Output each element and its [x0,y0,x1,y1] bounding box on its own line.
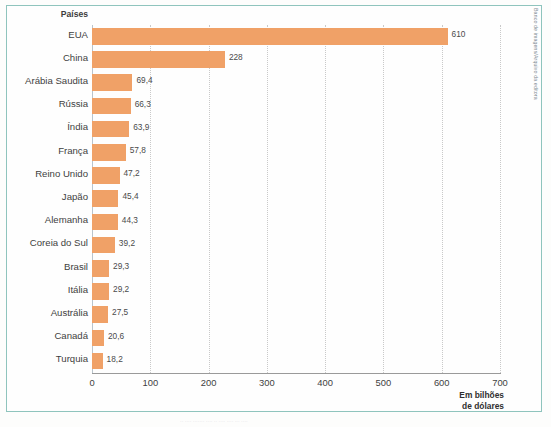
category-label: França [0,145,88,156]
category-label: Índia [0,121,88,132]
category-label-cell: Índia [0,118,88,141]
bar-value-label: 610 [452,29,466,39]
category-label-cell: Coreia do Sul [0,234,88,257]
category-label-cell: Turquia [0,350,88,373]
category-label: EUA [0,29,88,40]
bar[interactable] [92,74,132,91]
bar-value-label: 27,5 [112,307,128,317]
category-label: Brasil [0,261,88,272]
bar-row: 228China [92,48,500,71]
x-tick-label: 200 [189,377,229,388]
bar[interactable] [92,214,118,231]
bar-row: 47,2Reino Unido [92,164,500,187]
bottom-text-artifact: ·· ···· ······· ···· ·· ···· ···· ··· ··… [0,418,551,427]
category-label-cell: Austrália [0,303,88,326]
bar-value-label: 18,2 [107,354,123,364]
bar-value-label: 47,2 [124,168,140,178]
category-label: Canadá [0,330,88,341]
bar[interactable] [92,283,109,300]
x-tick-label: 700 [480,377,520,388]
plot-area: 610EUA228China69,4Arábia Saudita66,3Rúss… [92,25,500,373]
bar[interactable] [92,353,103,370]
bar-value-label: 39,2 [119,238,135,248]
bar-row: 45,4Japão [92,187,500,210]
bar-value-label: 29,2 [113,284,129,294]
category-label: Coreia do Sul [0,237,88,248]
bar-value-label: 29,3 [113,261,129,271]
category-label-cell: Itália [0,280,88,303]
category-label: Reino Unido [0,168,88,179]
bar-row: 20,6Canadá [92,327,500,350]
x-axis-label: Em bilhõesde dólares [430,390,504,411]
bottom-text-artifact-text: ·· ···· ······· ···· ·· ···· ···· ··· ··… [0,418,551,424]
bar-row: 27,5Austrália [92,303,500,326]
category-label-cell: Arábia Saudita [0,71,88,94]
bar-row: 63,9Índia [92,118,500,141]
bar[interactable] [92,121,129,138]
bar-value-label: 63,9 [133,122,149,132]
category-label-cell: China [0,48,88,71]
category-column-header: Países [0,9,88,19]
category-label: Alemanha [0,214,88,225]
bar[interactable] [92,98,131,115]
bar[interactable] [92,260,109,277]
bar-value-label: 20,6 [108,331,124,341]
category-label: China [0,52,88,63]
x-axis-label-line1: Em bilhões [430,390,504,401]
bar[interactable] [92,330,104,347]
category-label-cell: EUA [0,25,88,48]
bar[interactable] [92,144,126,161]
x-tick-label: 600 [422,377,462,388]
bar-row: 610EUA [92,25,500,48]
category-label-cell: Alemanha [0,211,88,234]
x-axis-label-line2: de dólares [430,401,504,412]
bar-value-label: 69,4 [136,75,152,85]
category-label-cell: Rússia [0,95,88,118]
bar-row: 57,8França [92,141,500,164]
bar-row: 69,4Arábia Saudita [92,71,500,94]
gridline [500,25,501,373]
x-axis-line [92,373,501,374]
category-label: Rússia [0,98,88,109]
category-label: Austrália [0,307,88,318]
category-label: Japão [0,191,88,202]
category-label-cell: Brasil [0,257,88,280]
category-label: Itália [0,284,88,295]
bar-value-label: 45,4 [122,191,138,201]
bar-value-label: 228 [229,52,243,62]
x-tick-label: 100 [130,377,170,388]
bar-value-label: 44,3 [122,215,138,225]
bar[interactable] [92,167,120,184]
category-label-cell: Canadá [0,327,88,350]
category-label: Turquia [0,353,88,364]
bar-row: 39,2Coreia do Sul [92,234,500,257]
bar[interactable] [92,190,118,207]
bar-value-label: 57,8 [130,145,146,155]
category-label-cell: Japão [0,187,88,210]
x-tick-label: 0 [72,377,112,388]
bar-row: 29,3Brasil [92,257,500,280]
bar-value-label: 66,3 [135,99,151,109]
category-label-cell: Reino Unido [0,164,88,187]
x-tick-label: 300 [247,377,287,388]
bar-row: 66,3Rússia [92,95,500,118]
bar-chart: Países 610EUA228China69,4Arábia Saudita6… [0,0,551,427]
bar-row: 18,2Turquia [92,350,500,373]
bar[interactable] [92,51,225,68]
bar[interactable] [92,28,448,45]
bar[interactable] [92,237,115,254]
bar[interactable] [92,306,108,323]
bar-row: 29,2Itália [92,280,500,303]
x-tick-label: 400 [305,377,345,388]
category-label: Arábia Saudita [0,75,88,86]
bar-row: 44,3Alemanha [92,211,500,234]
x-tick-label: 500 [363,377,403,388]
category-label-cell: França [0,141,88,164]
